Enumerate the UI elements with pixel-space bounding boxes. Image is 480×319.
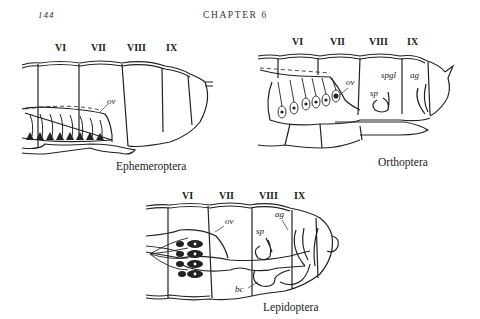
label-spermatheca: sp bbox=[370, 88, 378, 98]
segment-label-viii: VIII bbox=[369, 36, 388, 47]
caption-lepidoptera: Lepidoptera bbox=[263, 301, 319, 313]
segment-label-vi: VI bbox=[182, 190, 193, 201]
segment-label-ix: IX bbox=[166, 42, 177, 53]
page-number: 144 bbox=[38, 10, 55, 20]
chapter-title: CHAPTER 6 bbox=[203, 10, 268, 20]
figure-orthoptera: VI VII VIII IX ov spgl sp ag Orthoptera bbox=[250, 40, 480, 180]
segment-label-viii: VIII bbox=[127, 42, 146, 53]
segment-label-ix: IX bbox=[407, 36, 418, 47]
label-ovariole: ov bbox=[225, 216, 234, 226]
segment-label-ix: IX bbox=[294, 190, 305, 201]
figure-ephemeroptera: VI VII VIII IX ov Ephemeroptera bbox=[0, 40, 250, 180]
label-spermathecal-gland: spgl bbox=[381, 70, 396, 80]
label-ovariole: ov bbox=[346, 77, 355, 87]
label-spermatheca: sp bbox=[256, 226, 264, 236]
ephemeroptera-abdomen-diagram bbox=[0, 40, 250, 180]
orthoptera-abdomen-diagram bbox=[250, 40, 480, 180]
figure-lepidoptera: VI VII VIII IX ov sp ag bc Lepidoptera bbox=[120, 186, 360, 319]
segment-label-vii: VII bbox=[219, 190, 234, 201]
segment-label-vi: VI bbox=[292, 36, 303, 47]
segment-label-vii: VII bbox=[91, 42, 106, 53]
segment-label-viii: VIII bbox=[259, 190, 278, 201]
label-accessory-gland: ag bbox=[410, 70, 419, 80]
label-ovariole: ov bbox=[107, 96, 116, 106]
caption-ephemeroptera: Ephemeroptera bbox=[116, 160, 186, 172]
lepidoptera-abdomen-diagram bbox=[120, 186, 360, 319]
label-accessory-gland: ag bbox=[275, 209, 284, 219]
segment-label-vi: VI bbox=[55, 42, 66, 53]
segment-label-vii: VII bbox=[330, 36, 345, 47]
caption-orthoptera: Orthoptera bbox=[378, 156, 428, 168]
label-bursa-copulatrix: bc bbox=[235, 284, 244, 294]
